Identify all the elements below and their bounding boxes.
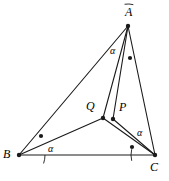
dot-angle-at-B	[39, 134, 43, 138]
vertex-point-q	[101, 116, 105, 120]
vertex-label-c: C	[150, 161, 158, 173]
vertex-point-a	[126, 24, 130, 28]
vertex-point-b	[17, 153, 21, 157]
angle-arcs-layer	[44, 4, 134, 163]
vertex-label-q: Q	[86, 100, 95, 112]
angle-label-alpha-at-b: α	[48, 144, 53, 154]
angle-label-alpha-at-c: α	[137, 128, 142, 138]
vertex-label-p: P	[119, 101, 126, 113]
geometry-canvas	[0, 0, 169, 181]
dot-angle-at-C	[130, 145, 134, 149]
angle-label-alpha-at-a: α	[110, 46, 115, 56]
vertex-point-p	[111, 117, 115, 121]
vertex-label-a: A	[125, 6, 132, 18]
segment-bq	[19, 118, 103, 155]
dot-angle-at-A	[128, 56, 132, 60]
arc-at-B	[44, 155, 45, 163]
geometry-diagram: A B C Q P α α α	[0, 0, 169, 181]
vertex-point-c	[153, 153, 157, 157]
vertex-label-b: B	[3, 148, 10, 160]
segment-qc	[103, 118, 155, 155]
